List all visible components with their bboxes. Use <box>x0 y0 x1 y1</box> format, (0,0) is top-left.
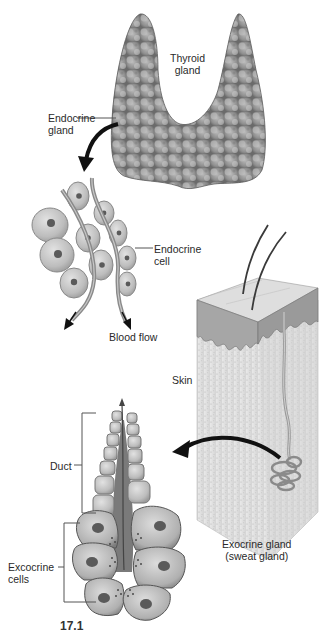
label-line: gland <box>170 64 205 76</box>
blood-flow-label: Blood flow <box>109 331 157 343</box>
endocrine-gland-label: Endocrine gland <box>48 112 95 136</box>
label-line: Endocrine <box>154 243 201 255</box>
endocrine-cell-cluster <box>32 178 136 322</box>
label-line: cell <box>154 255 201 267</box>
endocrine-cell-label: Endocrine cell <box>154 243 201 267</box>
label-line: (sweat gland) <box>222 550 291 562</box>
label-line: Exocrine gland <box>222 538 291 550</box>
thyroid-gland-label: Thyroid gland <box>170 52 205 76</box>
label-line: cells <box>8 573 54 585</box>
thyroid-gland-illustration <box>111 14 265 189</box>
skin-block-illustration <box>197 225 318 560</box>
figure-number-cropped: 17.1 <box>60 620 83 632</box>
label-line: Excocrine <box>8 561 54 573</box>
skin-label: Skin <box>172 374 192 386</box>
exocrine-gland-illustration <box>72 398 185 620</box>
label-line: Endocrine <box>48 112 95 124</box>
exocrine-cells-label: Excocrine cells <box>8 561 54 585</box>
label-line: Thyroid <box>170 52 205 64</box>
duct-label: Duct <box>50 460 72 472</box>
exocrine-gland-label: Exocrine gland (sweat gland) <box>222 538 291 562</box>
label-line: gland <box>48 124 95 136</box>
